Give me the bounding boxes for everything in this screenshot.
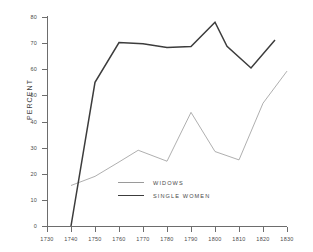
legend-label-single-women: SINGLE WOMEN (153, 193, 210, 199)
legend-label-widows: WIDOWS (153, 180, 184, 186)
legend-swatch-single-women (118, 195, 144, 196)
line-chart: PERCENT 01020304050607080 17301740175017… (0, 0, 313, 252)
legend-item-single-women: SINGLE WOMEN (118, 189, 210, 202)
chart-legend: WIDOWS SINGLE WOMEN (118, 176, 210, 202)
legend-item-widows: WIDOWS (118, 176, 210, 189)
series-lines (0, 0, 313, 252)
legend-swatch-widows (118, 182, 144, 183)
series-line-widows (71, 71, 287, 185)
